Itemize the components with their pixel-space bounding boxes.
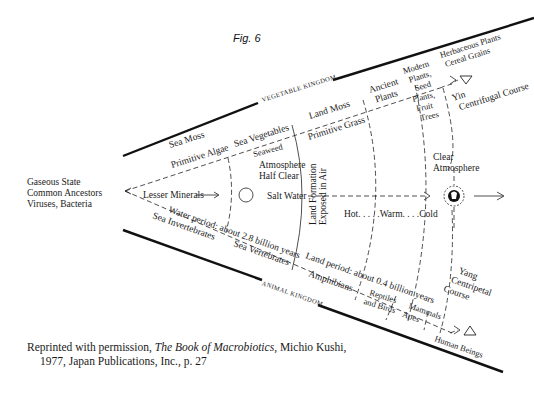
- vegetable-kingdom-line-right: [333, 18, 534, 80]
- label-seaweed: Seaweed: [252, 141, 284, 159]
- caption-line-1: Reprinted with permission, The Book of M…: [27, 340, 346, 354]
- svg-text:Land Formation: Land Formation: [308, 163, 318, 225]
- label-clear-atmosphere-2: Atmosphere: [433, 163, 479, 173]
- svg-text:Exposed in Air: Exposed in Air: [318, 167, 328, 225]
- caption-line-2: 1977, Japan Publications, Inc., p. 27: [27, 354, 346, 368]
- vegetable-kingdom-label: VEGETABLE KINGDOM: [261, 73, 337, 103]
- label-salt-water: Salt Water: [267, 191, 307, 201]
- svg-text:Sea Moss: Sea Moss: [168, 129, 206, 150]
- origin-label: Gaseous State Common Ancestors Viruses, …: [27, 177, 103, 209]
- figure-caption: Reprinted with permission, The Book of M…: [27, 340, 346, 368]
- svg-text:Gaseous State: Gaseous State: [27, 177, 81, 187]
- label-atmosphere-half-clear-1: Atmosphere: [259, 160, 305, 170]
- label-ancient-plants: Ancient Plants: [368, 76, 403, 105]
- label-land-moss: Land Moss: [308, 99, 352, 121]
- label-atmosphere-half-clear-2: Half Clear: [259, 171, 300, 181]
- figure-title: Fig. 6: [233, 32, 261, 44]
- yin-path: [440, 80, 458, 88]
- yang-arrowhead: [454, 326, 460, 334]
- salt-water-circle-icon: [239, 188, 253, 202]
- svg-text:VEGETABLE KINGDOM: VEGETABLE KINGDOM: [261, 73, 337, 103]
- yang-triangle-icon: [464, 326, 476, 335]
- label-yin-centrifugal: Yin Centrifugal Course: [451, 70, 530, 113]
- svg-text:Land Moss: Land Moss: [308, 99, 352, 121]
- label-plants-fruit-trees: Plants, Fruit Trees: [411, 89, 440, 123]
- svg-text:Common Ancestors: Common Ancestors: [27, 188, 103, 198]
- macrobiotics-evolution-diagram: Fig. 6 Gaseous State Common Ancestors Vi…: [0, 0, 534, 396]
- caption-book-title: The Book of Macrobiotics: [155, 341, 274, 353]
- svg-text:ANIMAL KINGDOM: ANIMAL KINGDOM: [261, 279, 324, 307]
- animal-kingdom-label: ANIMAL KINGDOM: [261, 279, 324, 307]
- yin-triangle-icon: [460, 76, 472, 84]
- label-clear-atmosphere-1: Clear: [433, 152, 454, 162]
- svg-text:Seaweed: Seaweed: [252, 141, 284, 159]
- svg-text:Centrifugal Course: Centrifugal Course: [458, 81, 530, 112]
- label-land-formation: Land Formation Exposed in Air: [308, 163, 328, 225]
- divider-sea-vegetables: [226, 158, 232, 232]
- divider-fruit-trees-lower: [440, 210, 453, 333]
- yin-arrowhead: [450, 76, 456, 84]
- svg-text:Viruses, Bacteria: Viruses, Bacteria: [27, 199, 93, 209]
- earth-globe-icon: [444, 168, 464, 228]
- label-temperature-scale: Hot. . . . .Warm. . . .Cold: [344, 209, 438, 219]
- label-yang-centripetal: Yang Centripetal Course: [442, 263, 497, 309]
- label-sea-moss: Sea Moss: [168, 129, 206, 150]
- label-lesser-minerals: Lesser Minerals: [143, 190, 204, 200]
